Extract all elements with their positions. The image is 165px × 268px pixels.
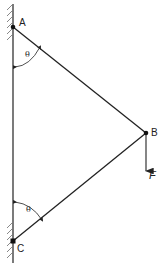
diagram-canvas	[0, 0, 165, 268]
joint-a	[11, 25, 16, 30]
label-a: A	[19, 18, 26, 28]
force-label-f: F	[149, 170, 156, 181]
joint-c	[11, 239, 16, 244]
angle-label-c: θ	[26, 206, 31, 214]
member-ab	[13, 27, 146, 133]
joint-b	[144, 131, 149, 136]
wall-hatch-top	[7, 5, 12, 40]
member-bc	[13, 133, 146, 241]
label-b: B	[151, 128, 158, 138]
wall-support	[7, 4, 13, 263]
label-c: C	[17, 244, 24, 254]
angle-label-a: θ	[25, 51, 30, 59]
